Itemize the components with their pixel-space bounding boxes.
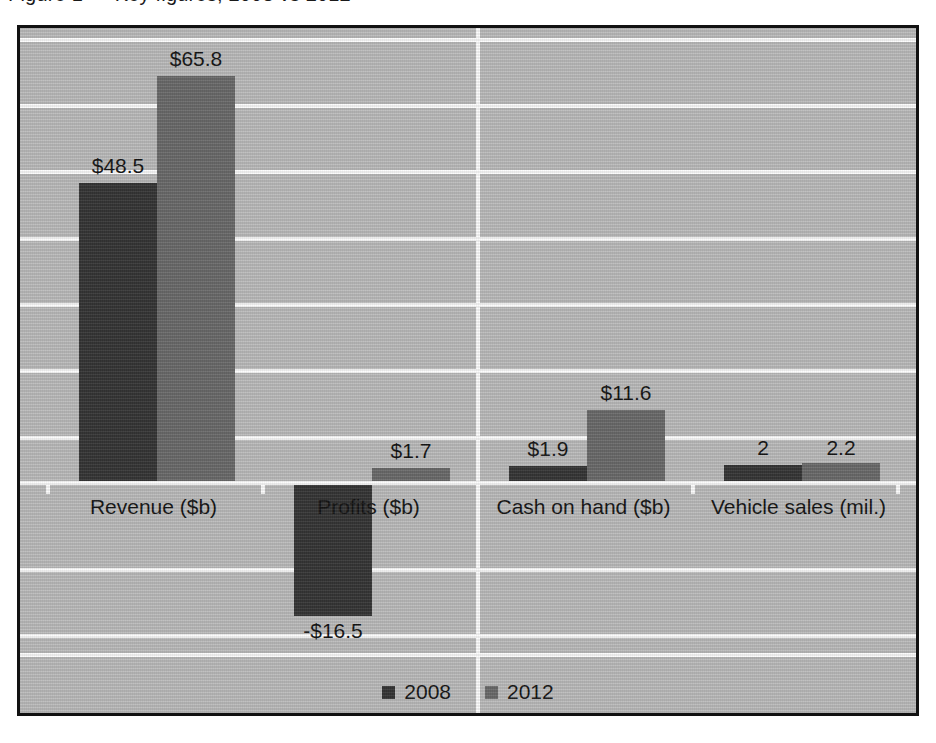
bar-label-revenue-2008: $48.5 xyxy=(78,154,158,178)
bar-label-profits-2012: $1.7 xyxy=(371,439,451,463)
gridline xyxy=(20,634,916,638)
cropped-caption-sliver: Figure 1 — Key figures, 2008 vs 2012 xyxy=(0,0,936,22)
bar-vehicle-sales-2008 xyxy=(724,465,802,481)
axis-tick xyxy=(691,481,695,494)
bar-revenue-2008 xyxy=(79,183,157,481)
bar-cash-2008 xyxy=(509,466,587,481)
gridline xyxy=(20,38,916,42)
category-label-profits: Profits ($b) xyxy=(261,495,476,519)
legend-item-2008[interactable]: 2008 xyxy=(382,680,451,704)
bar-label-profits-2008: -$16.5 xyxy=(293,619,373,643)
bar-label-cash-2008: $1.9 xyxy=(508,437,588,461)
zero-baseline-gridline xyxy=(20,481,916,485)
bar-label-vehicle-sales-2012: 2.2 xyxy=(801,436,881,460)
category-label-revenue: Revenue ($b) xyxy=(46,495,261,519)
axis-tick xyxy=(261,481,265,494)
legend-swatch-icon xyxy=(485,686,498,699)
gridline xyxy=(20,568,916,572)
chart-frame: $48.5 $65.8 Revenue ($b) $1.7 -$16.5 Pro… xyxy=(17,25,919,716)
bar-label-vehicle-sales-2008: 2 xyxy=(723,436,803,460)
bar-cash-2012 xyxy=(587,410,665,481)
axis-tick xyxy=(476,481,480,494)
legend: 2008 2012 xyxy=(20,680,916,704)
bar-label-revenue-2012: $65.8 xyxy=(156,47,236,71)
legend-label: 2012 xyxy=(507,680,554,704)
bar-vehicle-sales-2012 xyxy=(802,463,880,481)
legend-item-2012[interactable]: 2012 xyxy=(485,680,554,704)
axis-tick xyxy=(896,481,900,494)
bar-label-cash-2012: $11.6 xyxy=(586,381,666,405)
gridline xyxy=(20,104,916,108)
plot-area: $48.5 $65.8 Revenue ($b) $1.7 -$16.5 Pro… xyxy=(20,28,916,713)
bar-revenue-2012 xyxy=(157,76,235,481)
legend-swatch-icon xyxy=(382,686,395,699)
category-label-vehicle-sales: Vehicle sales (mil.) xyxy=(691,495,906,519)
axis-tick xyxy=(46,481,50,494)
legend-label: 2008 xyxy=(404,680,451,704)
gridline xyxy=(20,653,916,657)
caption-text: Figure 1 — Key figures, 2008 vs 2012 xyxy=(8,0,351,6)
category-label-cash-on-hand: Cash on hand ($b) xyxy=(476,495,691,519)
bar-profits-2012 xyxy=(372,468,450,481)
category-separator xyxy=(476,28,480,713)
